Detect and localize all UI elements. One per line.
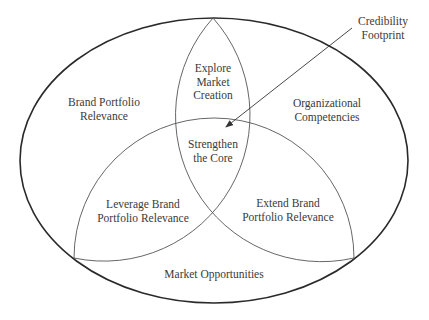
label-line: Market xyxy=(193,76,233,90)
label-line: Portfolio Relevance xyxy=(242,211,334,225)
label-line: Leverage Brand xyxy=(97,198,189,212)
label-market-opportunities: Market Opportunities xyxy=(164,268,263,282)
label-line: Creation xyxy=(193,89,233,103)
label-line: Credibility xyxy=(358,15,408,29)
label-line: the Core xyxy=(188,152,238,166)
label-line: Explore xyxy=(193,62,233,76)
label-line: Brand Portfolio xyxy=(68,96,140,110)
label-explore-market-creation: Explore Market Creation xyxy=(193,62,233,103)
label-credibility-footprint: Credibility Footprint xyxy=(358,15,408,42)
label-strengthen-the-core: Strengthen the Core xyxy=(188,138,238,165)
label-line: Market Opportunities xyxy=(164,268,263,282)
label-line: Relevance xyxy=(68,110,140,124)
label-line: Competencies xyxy=(293,111,361,125)
label-brand-portfolio-relevance: Brand Portfolio Relevance xyxy=(68,96,140,123)
label-extend-brand-portfolio-relevance: Extend Brand Portfolio Relevance xyxy=(242,197,334,224)
label-line: Footprint xyxy=(358,29,408,43)
label-organizational-competencies: Organizational Competencies xyxy=(293,97,361,124)
label-leverage-brand-portfolio-relevance: Leverage Brand Portfolio Relevance xyxy=(97,198,189,225)
label-line: Strengthen xyxy=(188,138,238,152)
label-line: Organizational xyxy=(293,97,361,111)
label-line: Extend Brand xyxy=(242,197,334,211)
label-line: Portfolio Relevance xyxy=(97,212,189,226)
